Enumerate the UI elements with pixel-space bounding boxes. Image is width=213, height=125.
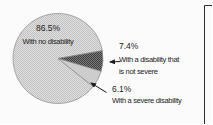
callout-arrow-severe: [91, 83, 107, 93]
pct-no-disability: 86.5%: [8, 22, 88, 35]
slice-label-not-severe: 7.4% With a disability that is not sever…: [119, 40, 179, 78]
slice-label-no-disability: 86.5% With no disability: [8, 22, 88, 48]
slice-label-severe: 6.1% With a severe disability: [112, 84, 182, 106]
name-not-severe-line1: With a disability that: [119, 54, 179, 66]
name-no-disability: With no disability: [8, 35, 88, 48]
name-severe: With a severe disability: [112, 95, 182, 106]
pct-severe: 6.1%: [112, 84, 182, 95]
name-not-severe-line2: is not severe: [119, 66, 179, 78]
pct-not-severe: 7.4%: [119, 40, 179, 52]
adjacent-panel-border: [205, 6, 213, 125]
figure-canvas: 86.5% With no disability 7.4% With a dis…: [0, 0, 212, 124]
